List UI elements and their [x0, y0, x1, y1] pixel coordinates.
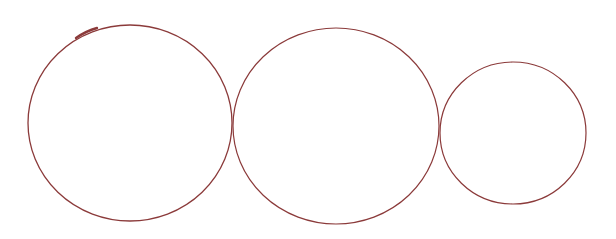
right-circle	[440, 62, 586, 204]
circles-drawing	[0, 0, 616, 239]
pen-accent-mark	[76, 28, 97, 38]
drawing-canvas	[0, 0, 616, 239]
left-circle	[28, 25, 232, 221]
middle-circle	[233, 28, 439, 224]
